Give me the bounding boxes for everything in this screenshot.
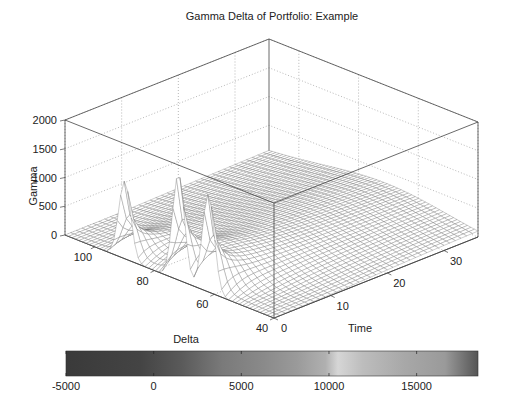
- svg-text:10000: 10000: [314, 380, 345, 392]
- svg-text:80: 80: [136, 275, 148, 287]
- svg-text:0: 0: [51, 229, 57, 241]
- svg-text:2000: 2000: [33, 114, 57, 126]
- svg-text:5000: 5000: [229, 380, 253, 392]
- svg-text:15000: 15000: [401, 380, 432, 392]
- surface-figure: Gamma Delta of Portfolio: Example 050010…: [0, 0, 505, 407]
- y-axis-label: Time: [348, 322, 372, 334]
- svg-text:500: 500: [39, 200, 57, 212]
- gamma-surface-mesh: [65, 150, 478, 318]
- svg-text:0: 0: [151, 380, 157, 392]
- svg-text:40: 40: [256, 322, 268, 334]
- svg-text:1500: 1500: [33, 143, 57, 155]
- svg-text:60: 60: [196, 298, 208, 310]
- colorbar: [66, 351, 478, 376]
- x-axis-label: Delta: [173, 333, 200, 345]
- z-axis-label: Gamma: [27, 166, 39, 206]
- svg-text:20: 20: [393, 277, 405, 289]
- svg-text:0: 0: [281, 322, 287, 334]
- svg-text:-5000: -5000: [52, 380, 80, 392]
- svg-text:10: 10: [337, 300, 349, 312]
- svg-text:30: 30: [450, 255, 462, 267]
- chart-title: Gamma Delta of Portfolio: Example: [186, 10, 358, 22]
- svg-text:100: 100: [74, 251, 92, 263]
